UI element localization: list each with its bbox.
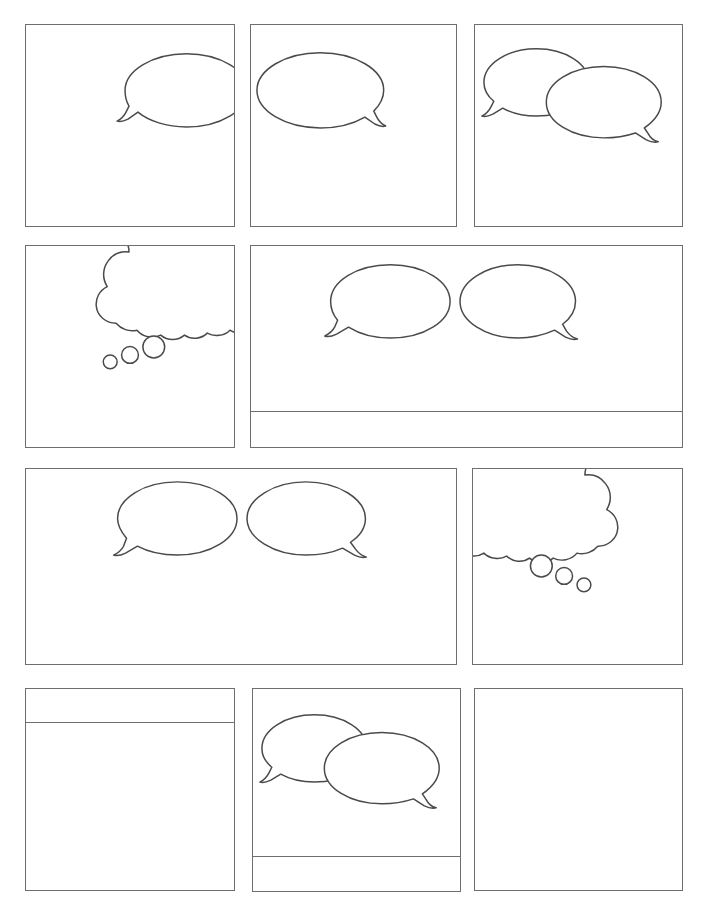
comic-panel[interactable] [25, 245, 235, 448]
speech-balloon[interactable] [546, 67, 661, 143]
thought-balloon[interactable] [96, 245, 235, 369]
comic-page [0, 0, 706, 906]
balloon-layer [475, 25, 682, 226]
speech-balloon[interactable] [460, 265, 577, 340]
comic-panel[interactable] [25, 468, 457, 665]
comic-panel[interactable] [25, 24, 235, 227]
caption-box[interactable] [26, 689, 234, 723]
thought-balloon[interactable] [472, 468, 618, 592]
balloon-layer [26, 25, 234, 226]
comic-panel[interactable] [474, 688, 683, 891]
comic-panel[interactable] [25, 688, 235, 891]
comic-panel[interactable] [250, 245, 683, 448]
speech-balloon[interactable] [324, 733, 439, 809]
speech-balloon[interactable] [482, 49, 589, 117]
speech-balloon[interactable] [117, 54, 235, 127]
comic-panel[interactable] [250, 24, 457, 227]
comic-panel[interactable] [474, 24, 683, 227]
speech-balloon[interactable] [260, 715, 367, 783]
caption-box[interactable] [253, 856, 460, 891]
balloon-layer [26, 469, 456, 664]
speech-balloon[interactable] [257, 53, 386, 128]
balloon-layer [26, 246, 234, 447]
balloon-layer [251, 25, 456, 226]
speech-balloon[interactable] [247, 482, 366, 558]
comic-panel[interactable] [252, 688, 461, 892]
speech-balloon[interactable] [114, 482, 237, 556]
caption-box[interactable] [251, 411, 682, 447]
speech-balloon[interactable] [325, 265, 450, 338]
comic-panel[interactable] [472, 468, 683, 665]
balloon-layer [473, 469, 682, 664]
